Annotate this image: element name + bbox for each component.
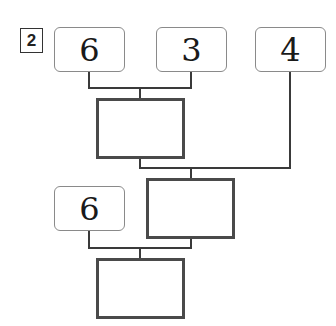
input-box-3: 3 <box>156 27 227 72</box>
input-box-4: 4 <box>255 27 326 72</box>
answer-box-3[interactable] <box>96 258 185 319</box>
problem-number-badge: 2 <box>20 28 43 53</box>
input-box-6: 6 <box>54 27 125 72</box>
answer-box-2[interactable] <box>146 178 235 239</box>
input-box-6-lower: 6 <box>54 186 125 231</box>
answer-box-1[interactable] <box>96 98 185 159</box>
